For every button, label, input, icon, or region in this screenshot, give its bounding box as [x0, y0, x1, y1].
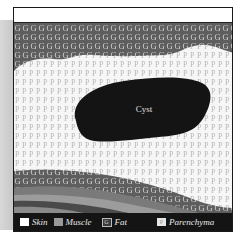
legend-item-parenchyma: P Parenchyma [157, 217, 214, 227]
legend: Skin Muscle G Fat P Parenchyma [14, 213, 232, 231]
parenchyma-swatch-icon: P [157, 218, 166, 226]
cyst-label: Cyst [136, 104, 153, 114]
skin-layer [14, 8, 232, 23]
legend-item-fat: G Fat [102, 217, 128, 227]
legend-item-skin: Skin [20, 217, 48, 227]
ultrasound-diagram-frame: G P Cyst Skin Muscle [13, 7, 233, 232]
muscle-swatch-icon [54, 218, 63, 226]
legend-item-muscle: Muscle [54, 217, 92, 227]
fat-swatch-icon: G [102, 218, 112, 227]
page-shadow [0, 20, 14, 230]
skin-swatch-icon [20, 218, 29, 226]
tissue-cross-section: G P Cyst [14, 23, 233, 215]
